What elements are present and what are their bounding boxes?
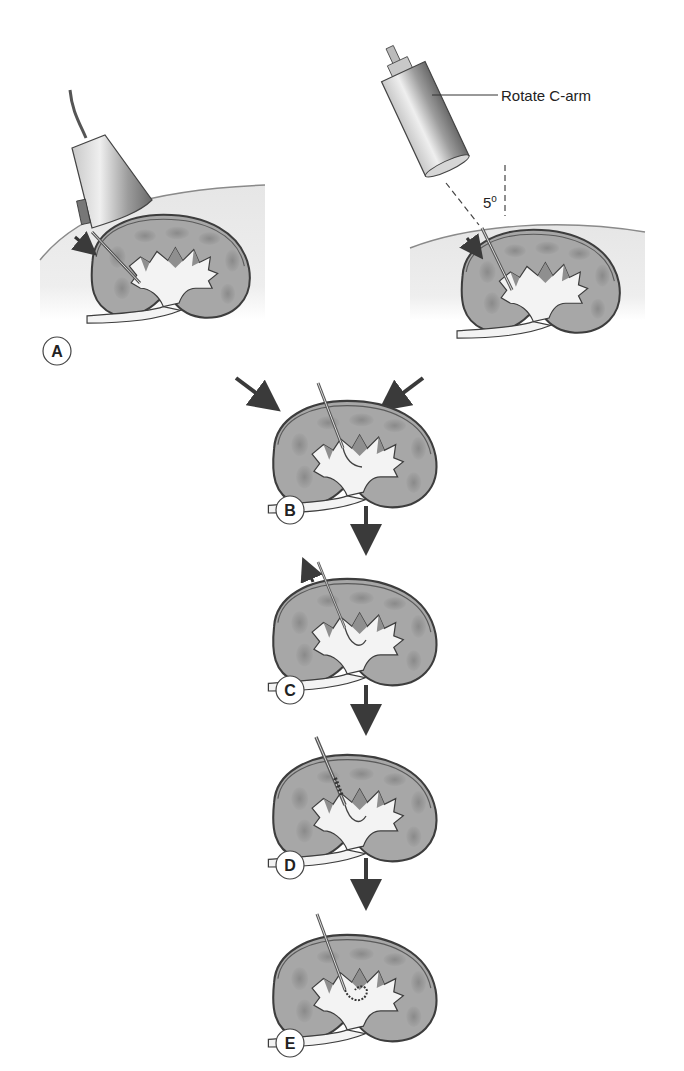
panel-b — [268, 383, 436, 513]
panel-d — [268, 737, 436, 867]
panel-c — [268, 562, 436, 691]
procedure-diagram: A Rotate C-arm 5o — [0, 0, 684, 1071]
angle-label: 5o — [483, 193, 497, 211]
panel-e — [268, 914, 436, 1047]
step-label-d: D — [276, 851, 304, 879]
panel-a-ultrasound — [40, 90, 265, 323]
svg-text:D: D — [284, 857, 296, 874]
arrow-a-to-b — [236, 378, 268, 402]
step-label-c: C — [276, 676, 304, 704]
step-label-e: E — [276, 1029, 304, 1057]
arrow-fluoro-to-b — [391, 378, 423, 402]
panel-fluoroscopy: Rotate C-arm 5o — [370, 36, 645, 338]
svg-text:A: A — [51, 343, 63, 360]
svg-text:E: E — [285, 1035, 296, 1052]
svg-text:C: C — [284, 682, 296, 699]
step-label-b: B — [276, 496, 304, 524]
rotate-c-arm-label: Rotate C-arm — [501, 87, 591, 104]
c-arm-icon — [370, 36, 471, 180]
step-label-a: A — [43, 337, 71, 365]
svg-text:B: B — [284, 502, 296, 519]
